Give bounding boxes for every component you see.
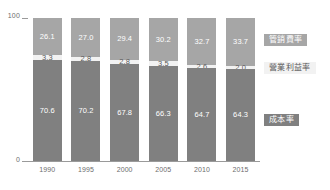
bar-column[interactable]: 32.72.664.7 xyxy=(187,18,216,161)
bar-segment-expense[interactable]: 32.7 xyxy=(187,18,216,65)
bar-value-label: 64.3 xyxy=(233,111,248,119)
bar-value-label: 66.3 xyxy=(156,110,171,118)
bar-group: 26.13.370.627.02.870.229.42.867.830.23.5… xyxy=(28,18,260,161)
x-axis-labels: 199019952000200520102015 xyxy=(28,166,260,173)
legend-item-cost[interactable]: 成本率 xyxy=(264,114,299,126)
chart-legend: 管銷費率 營業利益率 成本率 xyxy=(264,18,326,161)
bar-column[interactable]: 27.02.870.2 xyxy=(71,18,100,161)
bar-value-label: 32.7 xyxy=(194,38,209,46)
bar-value-label: 27.0 xyxy=(78,34,93,42)
bar-segment-cost[interactable]: 67.8 xyxy=(110,64,139,161)
bar-column[interactable]: 26.13.370.6 xyxy=(33,18,62,161)
bar-value-label: 70.2 xyxy=(78,107,93,115)
x-axis-label: 2015 xyxy=(226,166,255,173)
bar-column[interactable]: 33.72.064.3 xyxy=(226,18,255,161)
bar-column[interactable]: 30.23.566.3 xyxy=(149,18,178,161)
bar-column[interactable]: 29.42.867.8 xyxy=(110,18,139,161)
bar-segment-expense[interactable]: 33.7 xyxy=(226,18,255,66)
x-axis-label: 1995 xyxy=(71,166,100,173)
legend-item-profit[interactable]: 營業利益率 xyxy=(264,62,316,74)
bar-segment-cost[interactable]: 70.6 xyxy=(33,60,62,161)
bar-segment-expense[interactable]: 30.2 xyxy=(149,18,178,61)
bar-value-label: 67.8 xyxy=(117,109,132,117)
x-axis-label: 2005 xyxy=(149,166,178,173)
bar-segment-cost[interactable]: 64.3 xyxy=(226,69,255,161)
x-axis-label: 2010 xyxy=(187,166,216,173)
bar-value-label: 26.1 xyxy=(40,33,55,41)
x-axis-baseline xyxy=(28,161,260,162)
bar-segment-cost[interactable]: 70.2 xyxy=(71,61,100,161)
bar-value-label: 30.2 xyxy=(156,36,171,44)
bar-value-label: 70.6 xyxy=(40,107,55,115)
bar-segment-cost[interactable]: 66.3 xyxy=(149,66,178,161)
x-axis-label: 1990 xyxy=(33,166,62,173)
bar-value-label: 33.7 xyxy=(233,38,248,46)
bar-value-label: 29.4 xyxy=(117,35,132,43)
y-axis-label-100: 100 xyxy=(0,12,20,19)
x-axis-label: 2000 xyxy=(110,166,139,173)
bar-segment-expense[interactable]: 29.4 xyxy=(110,18,139,60)
y-axis-label-0: 0 xyxy=(0,156,20,163)
plot-area: 26.13.370.627.02.870.229.42.867.830.23.5… xyxy=(28,18,260,161)
bar-segment-expense[interactable]: 27.0 xyxy=(71,18,100,57)
bar-segment-expense[interactable]: 26.1 xyxy=(33,18,62,55)
bar-value-label: 64.7 xyxy=(194,111,209,119)
bar-segment-cost[interactable]: 64.7 xyxy=(187,68,216,161)
legend-item-expense[interactable]: 管銷費率 xyxy=(264,34,307,46)
stacked-bar-chart: 100 0 26.13.370.627.02.870.229.42.867.83… xyxy=(0,0,330,190)
